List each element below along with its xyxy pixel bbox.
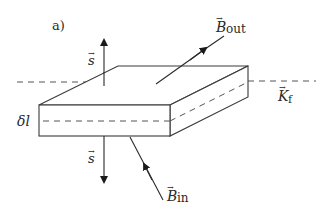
b-out-line-tail xyxy=(208,36,224,47)
k-f-vector-mark: → xyxy=(279,83,286,92)
panel-label: a) xyxy=(52,18,65,33)
s-bottom-vector-mark: → xyxy=(88,147,95,156)
b-out-subscript: out xyxy=(226,22,246,36)
boundary-slab-diagram: a) s → s → B out → B in → K f → δl xyxy=(0,0,330,220)
delta-l-label: δl xyxy=(17,113,30,129)
b-in-subscript: in xyxy=(177,191,189,205)
b-in-vector-mark: → xyxy=(167,183,174,192)
b-in-arrowhead xyxy=(144,164,152,180)
s-top-vector-mark: → xyxy=(88,49,95,58)
b-out-vector-mark: → xyxy=(216,14,223,23)
b-out-arrowhead xyxy=(190,48,206,60)
k-f-subscript: f xyxy=(288,93,293,106)
